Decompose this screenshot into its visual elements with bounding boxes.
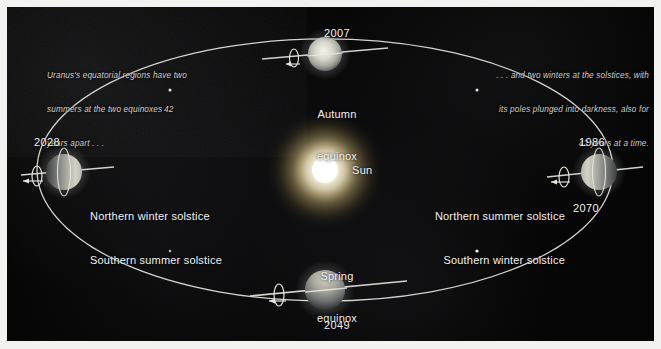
orbit-tick: [476, 89, 479, 92]
orbit-tick: [475, 249, 478, 252]
sun: [263, 108, 387, 232]
planet-autumn-equinox: [262, 28, 388, 80]
planet-northern-winter-solstice: [21, 145, 114, 199]
orbit-tick: [169, 250, 172, 253]
planet-body: [46, 154, 82, 190]
figure-canvas: Uranus's equatorial regions have two sum…: [0, 0, 661, 349]
orbit-diagram: [7, 7, 654, 341]
orbit-tick: [169, 89, 172, 92]
space-plate: Uranus's equatorial regions have two sum…: [7, 7, 654, 341]
rotation-indicator: [286, 49, 300, 67]
rotation-indicator: [269, 284, 286, 306]
planet-northern-summer-solstice: [547, 145, 643, 199]
planet-spring-equinox: [250, 260, 407, 320]
planet-body: [581, 154, 617, 190]
